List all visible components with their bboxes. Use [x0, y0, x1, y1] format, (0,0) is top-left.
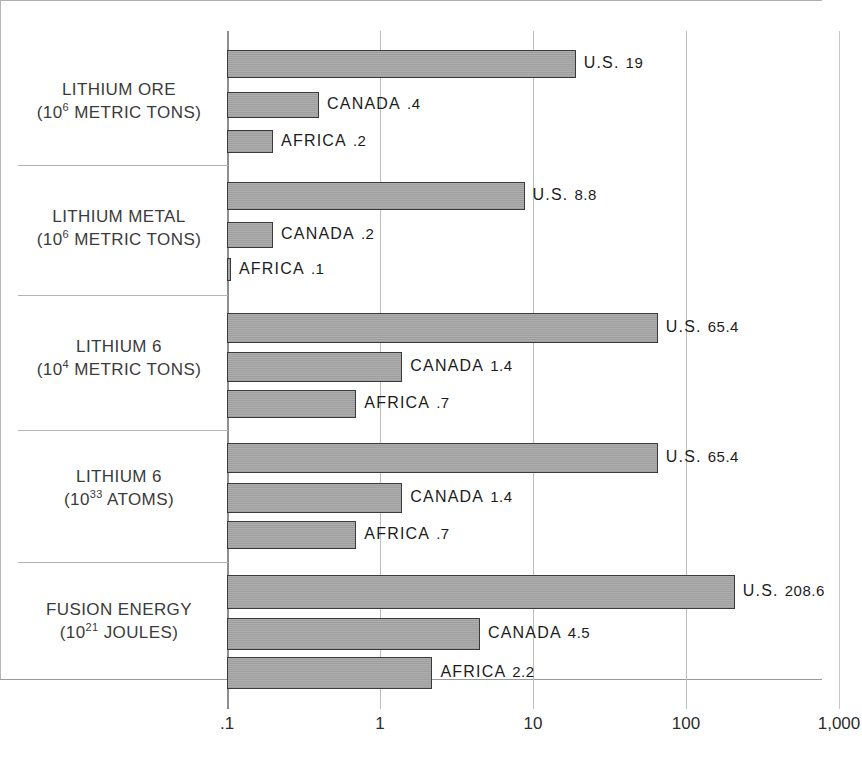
- category-label-line2: (106 METRIC TONS): [18, 101, 220, 124]
- x-tick-label-100: 100: [672, 714, 700, 734]
- bar-canada-2: [227, 222, 273, 248]
- gridline-1000: [839, 31, 840, 709]
- category-label-line2: (1033 ATOMS): [18, 488, 220, 511]
- lithium-resources-bar-chart: LITHIUM ORE(106 METRIC TONS)U.S.19CANADA…: [0, 0, 862, 759]
- bar-us-4: [227, 443, 658, 473]
- bar-value-label-africa-5: AFRICA2.2: [440, 663, 534, 681]
- category-separator-3: [18, 430, 228, 431]
- category-separator-4: [18, 562, 228, 563]
- chart-frame-right-border: [0, 1, 1, 679]
- bar-value: 19: [626, 54, 644, 71]
- category-label-2: LITHIUM METAL(106 METRIC TONS): [18, 205, 220, 251]
- category-label-line1: FUSION ENERGY: [18, 598, 220, 621]
- bar-canada-5: [227, 618, 480, 650]
- category-label-line2: (106 METRIC TONS): [18, 228, 220, 251]
- bar-value: .2: [361, 225, 375, 242]
- bar-value-label-canada-2: CANADA.2: [281, 225, 374, 243]
- category-label-3: LITHIUM 6(104 METRIC TONS): [18, 335, 220, 381]
- bar-series-name: AFRICA: [364, 525, 430, 542]
- bar-value-label-canada-4: CANADA1.4: [410, 488, 512, 506]
- category-label-line2: (1021 JOULES): [18, 621, 220, 644]
- category-label-line1: LITHIUM ORE: [18, 78, 220, 101]
- bar-value-label-africa-3: AFRICA.7: [364, 394, 449, 412]
- bar-series-name: U.S.: [666, 318, 702, 335]
- bar-value: .1: [311, 260, 325, 277]
- bar-value: 65.4: [708, 318, 739, 335]
- bar-value: .7: [436, 525, 450, 542]
- bar-canada-4: [227, 483, 402, 513]
- category-label-5: FUSION ENERGY(1021 JOULES): [18, 598, 220, 644]
- bar-us-2: [227, 182, 525, 210]
- bar-series-name: U.S.: [584, 54, 620, 71]
- bar-value: 1.4: [490, 357, 512, 374]
- category-label-4: LITHIUM 6(1033 ATOMS): [18, 465, 220, 511]
- bar-series-name: AFRICA: [281, 132, 347, 149]
- x-tick-label-10: 10: [524, 714, 543, 734]
- bar-africa-1: [227, 130, 273, 153]
- category-separator-2: [18, 295, 228, 296]
- bar-africa-5: [227, 657, 432, 689]
- bar-us-3: [227, 313, 658, 343]
- bar-value: 2.2: [512, 663, 534, 680]
- bar-value: .4: [407, 95, 421, 112]
- bar-value-label-us-4: U.S.65.4: [666, 448, 739, 466]
- bar-value: .7: [436, 394, 450, 411]
- category-label-line2: (104 METRIC TONS): [18, 358, 220, 381]
- category-label-line1: LITHIUM METAL: [18, 205, 220, 228]
- x-tick-label-.1: .1: [220, 714, 234, 734]
- bar-africa-3: [227, 390, 356, 418]
- bar-canada-1: [227, 92, 319, 118]
- bar-value: 4.5: [568, 624, 590, 641]
- bar-series-name: CANADA: [488, 624, 562, 641]
- bar-value-label-africa-1: AFRICA.2: [281, 132, 366, 150]
- bar-canada-3: [227, 352, 402, 382]
- category-label-line1: LITHIUM 6: [18, 465, 220, 488]
- bar-value-label-canada-5: CANADA4.5: [488, 624, 590, 642]
- bar-us-1: [227, 50, 576, 78]
- bar-value-label-us-3: U.S.65.4: [666, 318, 739, 336]
- bar-series-name: AFRICA: [440, 663, 506, 680]
- bar-value: .2: [353, 132, 367, 149]
- bar-value-label-us-5: U.S.208.6: [743, 582, 825, 600]
- category-separator-1: [18, 165, 228, 166]
- bar-value-label-us-2: U.S.8.8: [533, 186, 597, 204]
- bar-africa-2: [227, 258, 231, 281]
- x-tick-label-1000: 1,000: [818, 714, 861, 734]
- bar-value-label-canada-3: CANADA1.4: [410, 357, 512, 375]
- x-tick-label-1: 1: [375, 714, 384, 734]
- bar-value: 65.4: [708, 448, 739, 465]
- chart-frame-top-border: [0, 0, 822, 1]
- bar-value: 8.8: [574, 186, 596, 203]
- bar-series-name: U.S.: [666, 448, 702, 465]
- bar-series-name: AFRICA: [364, 394, 430, 411]
- bar-value: 208.6: [785, 582, 825, 599]
- bar-series-name: U.S.: [743, 582, 779, 599]
- category-label-1: LITHIUM ORE(106 METRIC TONS): [18, 78, 220, 124]
- bar-value-label-africa-4: AFRICA.7: [364, 525, 449, 543]
- bar-africa-4: [227, 521, 356, 549]
- bar-value-label-africa-2: AFRICA.1: [239, 260, 324, 278]
- bar-series-name: CANADA: [281, 225, 355, 242]
- bar-us-5: [227, 575, 735, 609]
- bar-series-name: CANADA: [410, 357, 484, 374]
- bar-value-label-canada-1: CANADA.4: [327, 95, 420, 113]
- category-label-line1: LITHIUM 6: [18, 335, 220, 358]
- bar-series-name: CANADA: [327, 95, 401, 112]
- bar-series-name: U.S.: [533, 186, 569, 203]
- bar-series-name: CANADA: [410, 488, 484, 505]
- bar-series-name: AFRICA: [239, 260, 305, 277]
- bar-value: 1.4: [490, 488, 512, 505]
- bar-value-label-us-1: U.S.19: [584, 54, 644, 72]
